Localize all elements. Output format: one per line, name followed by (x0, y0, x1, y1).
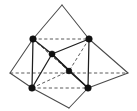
solid-edge-uppercenter-to-center (52, 54, 69, 71)
solid-edge-topright-to-rightcorner (89, 39, 128, 73)
solid-edge-center-to-bottomright (69, 71, 88, 88)
vertex-dot-upper-center (49, 51, 55, 57)
solid-edge-uppercenter-to-topright (52, 39, 89, 54)
solid-edge-group (10, 5, 128, 108)
figure-canvas (0, 0, 137, 111)
solid-edge-apex-to-topleft (33, 5, 62, 39)
solid-edge-topleft-to-bottomleft (32, 39, 33, 88)
solid-edge-apex-to-topright (62, 5, 89, 39)
solid-edge-topright-to-bottomright (88, 39, 89, 88)
vertex-dot-bottom-right (85, 85, 92, 92)
geometric-figure (0, 0, 137, 111)
vertex-dot-top-left (30, 36, 37, 43)
solid-edge-topleft-to-uppercenter (33, 39, 52, 54)
solid-edge-bottomleft-to-bottomcorner (32, 88, 69, 108)
solid-edge-leftcorner-to-bottomleft (10, 73, 32, 88)
vertex-dot-bottom-left (29, 85, 36, 92)
solid-edge-topleft-to-leftcorner (10, 39, 33, 73)
vertex-dot-center (66, 68, 72, 74)
vertex-dot-top-right (86, 36, 93, 43)
solid-edge-bottomcorner-to-bottomright (69, 88, 88, 108)
solid-edge-rightcorner-to-bottomright (88, 73, 128, 88)
dashed-edge-topright-to-center (69, 39, 89, 71)
